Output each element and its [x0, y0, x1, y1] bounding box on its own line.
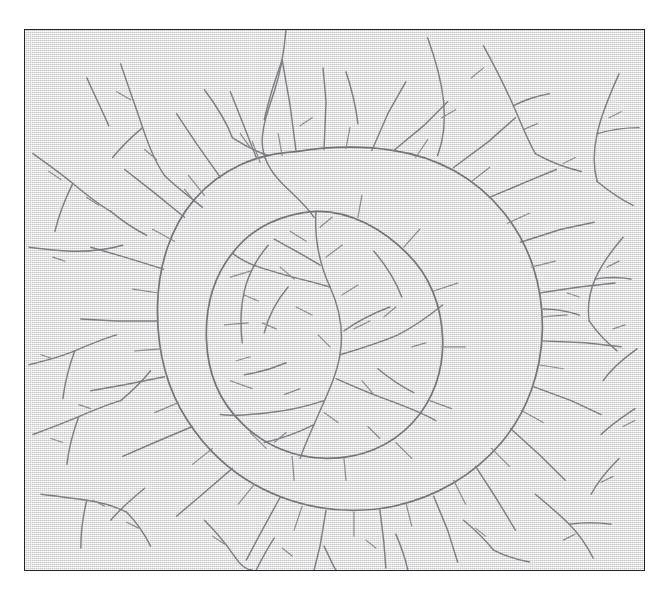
- core-channel-8: [241, 245, 268, 343]
- background-channel-33: [396, 534, 408, 570]
- ring-barb-32: [404, 229, 420, 247]
- ring-barb-26: [292, 456, 294, 480]
- background-channel-36: [535, 494, 593, 558]
- radial-branch-13: [380, 509, 386, 568]
- background-channel-27: [41, 494, 127, 512]
- core-twig-2: [280, 267, 294, 279]
- core-twig-1: [326, 245, 342, 257]
- ring-barb-15: [238, 484, 254, 504]
- core-twig-8: [284, 389, 300, 395]
- core-twig-14: [368, 427, 380, 439]
- core-twig-0: [290, 231, 306, 241]
- ring-barb-7: [542, 315, 567, 317]
- background-channel-21: [29, 335, 117, 365]
- figure-frame: [24, 29, 645, 571]
- radial-branch-19: [81, 319, 158, 321]
- background-twig-15: [613, 325, 625, 329]
- background-channel-32: [324, 546, 336, 570]
- background-channel-0: [262, 30, 314, 217]
- ring-barb-19: [133, 289, 159, 293]
- radial-branch-23: [230, 92, 256, 158]
- core-channel-10: [264, 287, 288, 333]
- ring-barb-22: [230, 271, 250, 277]
- background-channel-10: [597, 181, 633, 205]
- background-channel-7: [535, 154, 581, 172]
- radial-branch-2: [372, 82, 406, 151]
- radial-branch-17: [123, 427, 193, 457]
- ring-barb-27: [344, 458, 346, 480]
- core-channel-7: [264, 425, 314, 443]
- radial-branch-21: [125, 169, 185, 217]
- radial-branch-12: [434, 496, 458, 562]
- background-channel-13: [111, 211, 147, 235]
- background-channel-30: [204, 520, 252, 570]
- ring-barb-9: [521, 411, 543, 423]
- background-channel-34: [464, 520, 494, 550]
- background-channel-15: [29, 245, 123, 251]
- ring-barb-17: [155, 403, 179, 413]
- radial-branch-11: [476, 466, 516, 530]
- radial-branch-4: [454, 118, 516, 168]
- core-twig-16: [236, 357, 250, 361]
- background-twig-0: [117, 92, 131, 100]
- background-channel-35: [493, 550, 529, 562]
- core-channel-12: [244, 363, 286, 375]
- background-channel-11: [597, 128, 639, 134]
- radial-branch-18: [91, 377, 165, 391]
- core-channel-11: [378, 369, 414, 393]
- background-channel-19: [543, 309, 579, 315]
- ring-barb-24: [230, 381, 252, 389]
- background-twig-4: [300, 118, 312, 126]
- core-channel-4: [220, 401, 324, 416]
- background-channel-1: [264, 60, 282, 120]
- radial-branch-3: [394, 102, 448, 151]
- background-channel-16: [588, 237, 623, 321]
- background-channel-26: [111, 488, 145, 520]
- drainage-network-diagram: [25, 30, 644, 570]
- core-channel-3: [336, 379, 436, 421]
- background-twig-8: [563, 158, 575, 164]
- background-channel-14: [55, 183, 73, 231]
- core-twig-11: [244, 295, 258, 301]
- ring-barb-18: [135, 349, 161, 351]
- ring-barb-20: [153, 229, 175, 241]
- background-channel-37: [569, 523, 611, 524]
- radial-branch-0: [282, 60, 296, 152]
- background-channel-43: [87, 78, 109, 126]
- ring-barb-3: [416, 140, 428, 158]
- background-channels-group: [29, 30, 639, 570]
- radial-branch-1: [323, 68, 326, 150]
- radial-branch-9: [533, 387, 601, 415]
- ring-barb-21: [188, 175, 204, 195]
- core-twig-9: [324, 413, 338, 423]
- core-twig-6: [318, 335, 330, 347]
- background-twig-25: [563, 534, 575, 540]
- background-twig-16: [41, 355, 53, 359]
- background-channel-2: [121, 64, 165, 176]
- core-twig-17: [320, 217, 332, 227]
- background-channel-9: [594, 74, 619, 182]
- ring-barb-28: [396, 442, 412, 458]
- background-channel-22: [63, 351, 75, 399]
- ring-barb-12: [406, 502, 412, 526]
- background-twig-6: [472, 68, 484, 78]
- background-twig-18: [51, 438, 63, 442]
- background-twig-13: [607, 261, 619, 267]
- ring-barb-23: [224, 323, 248, 325]
- radial-branch-10: [510, 429, 565, 481]
- ring-barb-11: [454, 480, 466, 504]
- ring-barb-1: [278, 134, 282, 156]
- background-twig-22: [282, 548, 292, 556]
- radial-branch-7: [539, 283, 615, 293]
- background-channel-23: [33, 401, 121, 435]
- ring-barb-2: [346, 128, 350, 149]
- background-channel-39: [601, 409, 635, 435]
- background-channel-24: [121, 371, 151, 401]
- radial-branch-6: [520, 222, 594, 242]
- background-channel-18: [595, 278, 631, 279]
- core-twig-3: [342, 285, 358, 295]
- background-channel-29: [81, 500, 87, 548]
- background-channel-3: [165, 175, 203, 207]
- core-channels-group: [220, 211, 442, 458]
- figure-root: [0, 0, 669, 597]
